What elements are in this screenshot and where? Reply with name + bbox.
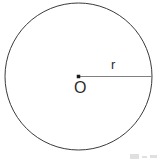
circle-radius-diagram: r O <box>0 0 160 162</box>
watermark-mark-2 <box>142 156 147 158</box>
watermark-mark-1 <box>130 154 139 159</box>
center-label: O <box>74 80 86 96</box>
watermark-fragment <box>130 153 158 160</box>
center-point <box>77 75 81 79</box>
watermark-mark-3 <box>150 155 157 158</box>
radius-label: r <box>111 58 115 71</box>
